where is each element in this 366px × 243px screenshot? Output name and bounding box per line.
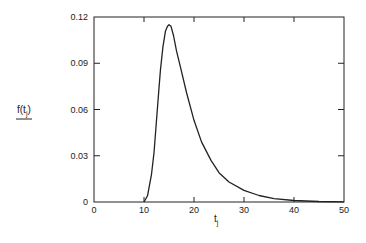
y-tick-label: 0.12 (70, 12, 88, 22)
plot-frame (94, 17, 344, 202)
x-axis-ticks: 01020304050 (91, 17, 349, 215)
data-line (144, 25, 344, 202)
x-tick-label: 40 (289, 205, 299, 215)
y-tick-label: 0.06 (70, 105, 88, 115)
x-tick-label: 20 (189, 205, 199, 215)
y-axis-ticks: 00.030.060.090.12 (70, 12, 344, 207)
y-axis-label: f(tj) (16, 104, 32, 119)
y-tick-label: 0.03 (70, 151, 88, 161)
x-tick-label: 10 (139, 205, 149, 215)
x-axis-label: tj (214, 213, 219, 227)
x-tick-label: 50 (339, 205, 349, 215)
x-tick-label: 30 (239, 205, 249, 215)
y-tick-label: 0.09 (70, 58, 88, 68)
x-tick-label: 0 (91, 205, 96, 215)
y-tick-label: 0 (83, 197, 88, 207)
svg-text:f(tj): f(tj) (17, 104, 31, 118)
chart: 01020304050 00.030.060.090.12 tj f(tj) (0, 0, 366, 243)
